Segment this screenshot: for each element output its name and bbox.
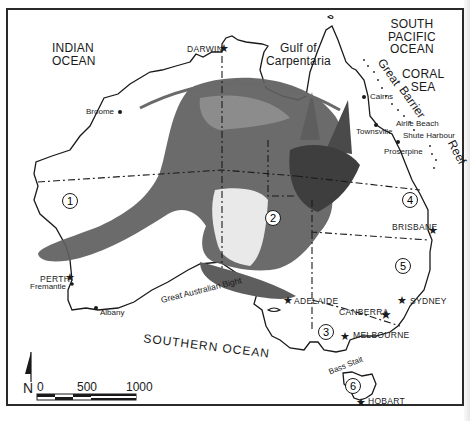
city-label-adelaide: ADELAIDE bbox=[294, 297, 338, 306]
region-marker-1: 1 bbox=[62, 193, 78, 209]
broome-dot bbox=[118, 110, 122, 114]
city-label-airlie-beach: Airlie Beach bbox=[396, 120, 439, 128]
north-label: N bbox=[23, 380, 33, 396]
city-label-brisbane: BRISBANE bbox=[392, 223, 437, 232]
proserpine-dot bbox=[396, 140, 400, 144]
cairns-dot bbox=[362, 95, 366, 99]
scale-tick-0: 0 bbox=[37, 380, 44, 394]
city-label-cairns: Cairns bbox=[370, 93, 393, 101]
region-marker-4: 4 bbox=[402, 192, 418, 208]
gulf-of-carpentaria-label: Gulf of Carpentaria bbox=[266, 42, 331, 67]
city-label-hobart: HOBART bbox=[368, 397, 405, 406]
kangaroo-island bbox=[268, 308, 280, 312]
albany-dot bbox=[94, 306, 98, 310]
city-label-darwin: DARWIN bbox=[187, 45, 223, 54]
south-pacific-ocean-label: SOUTH PACIFIC OCEAN bbox=[388, 18, 436, 56]
scale-tick-500: 500 bbox=[77, 380, 97, 394]
indian-ocean-label: INDIAN OCEAN bbox=[52, 42, 96, 67]
city-label-canberra: CANBERRA bbox=[339, 308, 389, 317]
hobart-star: ★ bbox=[356, 396, 366, 409]
melbourne-star: ★ bbox=[340, 330, 350, 343]
city-label-albany: Albany bbox=[100, 309, 124, 317]
region-marker-6: 6 bbox=[345, 378, 361, 394]
city-label-broome: Broome bbox=[86, 108, 114, 116]
city-label-shute-harbour: Shute Harbour bbox=[403, 132, 455, 140]
scale-tick-1000: 1000 bbox=[126, 380, 153, 394]
region-marker-5: 5 bbox=[395, 258, 411, 274]
city-label-fremantle: Fremantle bbox=[30, 283, 66, 291]
adelaide-star: ★ bbox=[283, 294, 293, 307]
city-label-proserpine: Proserpine bbox=[384, 148, 423, 156]
city-label-sydney: SYDNEY bbox=[410, 297, 447, 306]
scale-bar bbox=[37, 394, 136, 400]
city-label-melbourne: MELBOURNE bbox=[353, 331, 410, 340]
region-marker-2: 2 bbox=[265, 210, 281, 226]
sydney-star: ★ bbox=[397, 294, 407, 307]
city-label-townsville: Townsville bbox=[356, 128, 392, 136]
cape-york-island bbox=[328, 16, 333, 19]
north-arrow bbox=[25, 352, 31, 382]
region-marker-3: 3 bbox=[318, 324, 334, 340]
